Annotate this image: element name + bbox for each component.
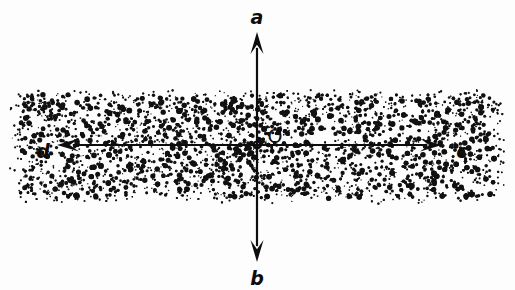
ray-labels-layer: a b c d O (0, 0, 515, 290)
ray-label-b: b (250, 267, 264, 289)
ray-label-a: a (251, 6, 264, 28)
diagram-canvas: a b c d O (0, 0, 515, 290)
ray-label-d: d (36, 140, 50, 162)
origin-label: O (268, 125, 283, 147)
ray-label-c: c (456, 140, 468, 162)
